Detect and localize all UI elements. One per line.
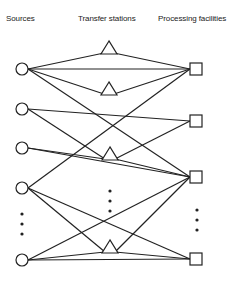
edge-s4-t4: [28, 188, 105, 252]
edge-s5-f4: [28, 259, 190, 260]
edge-s2-f2: [28, 109, 190, 121]
transfer-ellipsis-dot: [108, 189, 111, 192]
processing-facility-square-icon: [190, 253, 202, 265]
source-node-circle-icon: [16, 103, 28, 115]
transfer-station-triangle-icon: [101, 82, 117, 95]
source-node-circle-icon: [16, 182, 28, 194]
source-node-circle-icon: [16, 254, 28, 266]
transfer-station-triangle-icon: [102, 240, 118, 253]
edge-t3-f2: [115, 121, 190, 159]
edge-s1-t1: [28, 53, 104, 69]
network-diagram: [0, 0, 238, 281]
transfer-station-triangle-icon: [102, 147, 118, 160]
edge-t1-f1: [114, 53, 190, 69]
processing-ellipsis-dot: [195, 228, 198, 231]
source-node-circle-icon: [16, 63, 28, 75]
processing-ellipsis-dot: [195, 218, 198, 221]
edge-t4-f3: [115, 177, 190, 252]
sources-ellipsis-dot: [20, 212, 23, 215]
source-node-circle-icon: [16, 142, 28, 154]
sources-ellipsis-dot: [20, 222, 23, 225]
transfer-station-triangle-icon: [101, 41, 117, 54]
edge-s2-t3: [28, 109, 105, 159]
edge-s5-t4: [28, 252, 105, 260]
processing-ellipsis-dot: [195, 208, 198, 211]
processing-facility-square-icon: [190, 63, 202, 75]
edge-t2-f1: [114, 69, 190, 94]
transfer-ellipsis-dot: [108, 199, 111, 202]
transfer-ellipsis-dot: [108, 209, 111, 212]
processing-facility-square-icon: [190, 171, 202, 183]
processing-facility-square-icon: [190, 115, 202, 127]
sources-ellipsis-dot: [20, 232, 23, 235]
edge-t3-f3: [115, 159, 190, 177]
edge-t4-f4: [115, 252, 190, 259]
edge-s1-t2: [28, 69, 104, 94]
